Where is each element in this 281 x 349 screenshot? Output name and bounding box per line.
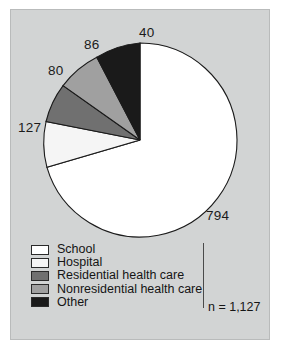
slice-label-other: 40	[139, 25, 154, 40]
legend-swatch-residential	[31, 271, 49, 281]
legend-swatch-hospital	[31, 258, 49, 268]
legend-item-residential: Residential health care	[31, 269, 211, 282]
legend-item-school: School	[31, 243, 211, 256]
legend-label-nonresidential: Nonresidential health care	[57, 283, 202, 296]
legend-item-other: Other	[31, 296, 211, 309]
legend-swatch-nonresidential	[31, 284, 49, 294]
slice-label-nonresidential: 86	[84, 37, 99, 52]
slice-label-school: 794	[206, 208, 229, 223]
legend-item-nonresidential: Nonresidential health care	[31, 283, 211, 296]
annotation-divider-rule	[203, 243, 204, 308]
legend-item-hospital: Hospital	[31, 256, 211, 269]
chart-area: 40 86 80 127 794 School Hospital Residen…	[0, 0, 281, 349]
legend-label-residential: Residential health care	[57, 269, 184, 282]
legend-label-other: Other	[57, 296, 88, 309]
sample-size-annotation: n = 1,127	[208, 300, 260, 314]
legend-swatch-school	[31, 245, 49, 255]
legend-label-school: School	[57, 243, 95, 256]
legend-swatch-other	[31, 297, 49, 307]
slice-label-hospital: 127	[18, 120, 41, 135]
legend: School Hospital Residential health care …	[31, 243, 211, 309]
pie-chart-figure: 40 86 80 127 794 School Hospital Residen…	[0, 0, 281, 349]
slice-label-residential: 80	[48, 63, 63, 78]
legend-label-hospital: Hospital	[57, 256, 102, 269]
